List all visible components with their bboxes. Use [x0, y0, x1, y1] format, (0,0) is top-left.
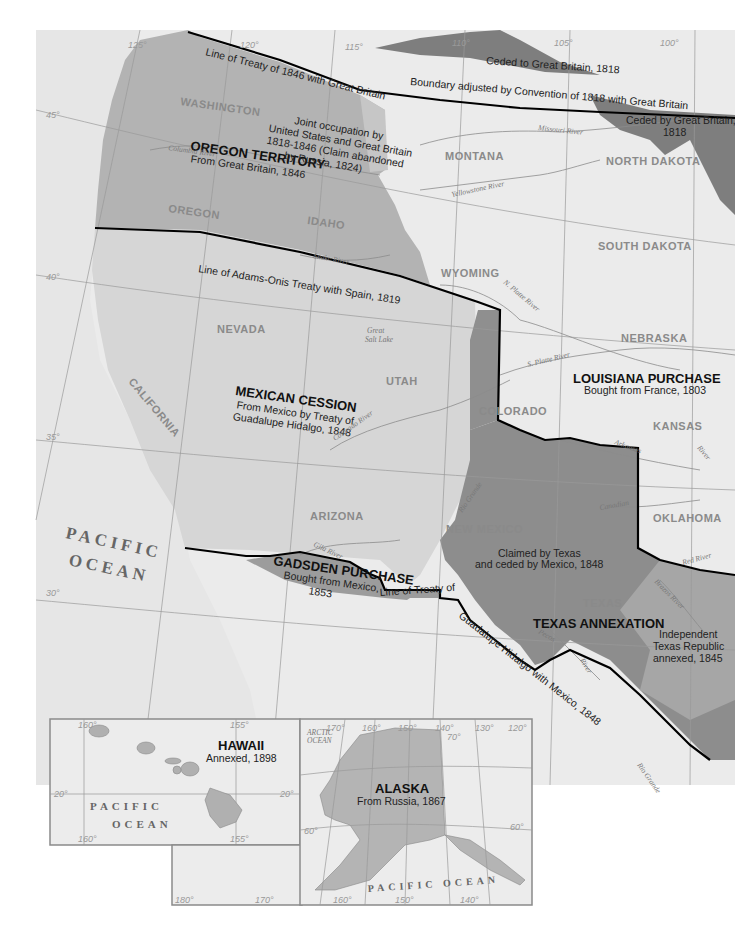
svg-text:45°: 45°	[46, 110, 60, 120]
svg-text:40°: 40°	[46, 272, 60, 282]
svg-text:Salt Lake: Salt Lake	[365, 335, 394, 344]
hawaii-inset: 160° 155° 20° 20° 160° 155° HAWAII Annex…	[50, 719, 300, 845]
svg-text:NEVADA: NEVADA	[217, 323, 266, 335]
svg-text:Texas Republic: Texas Republic	[653, 640, 724, 652]
svg-text:110°: 110°	[452, 38, 470, 48]
svg-text:SOUTH DAKOTA: SOUTH DAKOTA	[598, 240, 692, 252]
svg-text:annexed, 1845: annexed, 1845	[653, 652, 723, 664]
svg-text:100°: 100°	[660, 38, 679, 48]
svg-text:UTAH: UTAH	[386, 375, 418, 387]
svg-text:NEW MEXICO: NEW MEXICO	[446, 523, 523, 535]
svg-text:155°: 155°	[230, 720, 249, 730]
svg-text:NEBRASKA: NEBRASKA	[621, 332, 687, 344]
svg-text:150°: 150°	[395, 895, 414, 905]
svg-text:130°: 130°	[475, 723, 494, 733]
svg-text:20°: 20°	[279, 789, 294, 799]
svg-text:160°: 160°	[78, 834, 97, 844]
svg-text:170°: 170°	[255, 895, 274, 905]
svg-text:120°: 120°	[508, 723, 527, 733]
svg-text:125°: 125°	[128, 40, 147, 50]
svg-text:Bought from France, 1803: Bought from France, 1803	[584, 384, 706, 396]
louisiana-purchase-label: LOUISIANA PURCHASE Bought from France, 1…	[573, 371, 721, 396]
svg-text:MONTANA: MONTANA	[445, 150, 504, 162]
svg-text:ARIZONA: ARIZONA	[310, 510, 364, 522]
texas-annexation-label: TEXAS ANNEXATION	[533, 616, 664, 631]
svg-text:PACIFIC: PACIFIC	[90, 800, 163, 812]
svg-text:ALASKA: ALASKA	[375, 781, 430, 796]
svg-text:From Russia, 1867: From Russia, 1867	[357, 795, 446, 807]
svg-text:TEXAS ANNEXATION: TEXAS ANNEXATION	[533, 616, 664, 631]
territorial-expansion-map: 125° 120° 115° 110° 105° 100° 45° 40° 35…	[0, 0, 735, 930]
svg-text:HAWAII: HAWAII	[218, 738, 264, 753]
svg-text:60°: 60°	[304, 826, 318, 836]
svg-text:120°: 120°	[240, 40, 259, 50]
ceded-by-gb-label-2: 1818	[663, 126, 687, 138]
svg-text:160°: 160°	[333, 895, 352, 905]
svg-text:OKLAHOMA: OKLAHOMA	[653, 512, 722, 524]
svg-text:70°: 70°	[447, 732, 461, 742]
svg-text:20°: 20°	[53, 789, 68, 799]
svg-text:OCEAN: OCEAN	[307, 736, 333, 745]
svg-text:Annexed, 1898: Annexed, 1898	[206, 752, 277, 764]
svg-text:NORTH DAKOTA: NORTH DAKOTA	[606, 155, 700, 167]
texas-republic-label: Independent Texas Republic annexed, 1845	[653, 628, 724, 664]
svg-text:35°: 35°	[46, 432, 60, 442]
svg-text:COLORADO: COLORADO	[479, 405, 547, 417]
svg-text:Great: Great	[367, 326, 385, 335]
svg-text:155°: 155°	[230, 834, 249, 844]
svg-text:WYOMING: WYOMING	[441, 267, 500, 279]
svg-text:OCEAN: OCEAN	[112, 818, 172, 830]
svg-text:60°: 60°	[510, 822, 524, 832]
svg-text:105°: 105°	[554, 38, 573, 48]
svg-text:30°: 30°	[46, 588, 60, 598]
ceded-by-gb-label-1: Ceded by Great Britain,	[626, 114, 735, 126]
svg-text:KANSAS: KANSAS	[653, 420, 702, 432]
svg-text:and ceded by Mexico, 1848: and ceded by Mexico, 1848	[475, 558, 604, 570]
svg-text:115°: 115°	[345, 42, 363, 52]
svg-text:180°: 180°	[175, 895, 194, 905]
svg-text:140°: 140°	[460, 895, 479, 905]
svg-text:160°: 160°	[362, 723, 381, 733]
svg-text:150°: 150°	[398, 723, 417, 733]
svg-text:TEXAS: TEXAS	[583, 597, 622, 609]
svg-text:160°: 160°	[78, 720, 97, 730]
svg-text:Independent: Independent	[659, 628, 717, 640]
